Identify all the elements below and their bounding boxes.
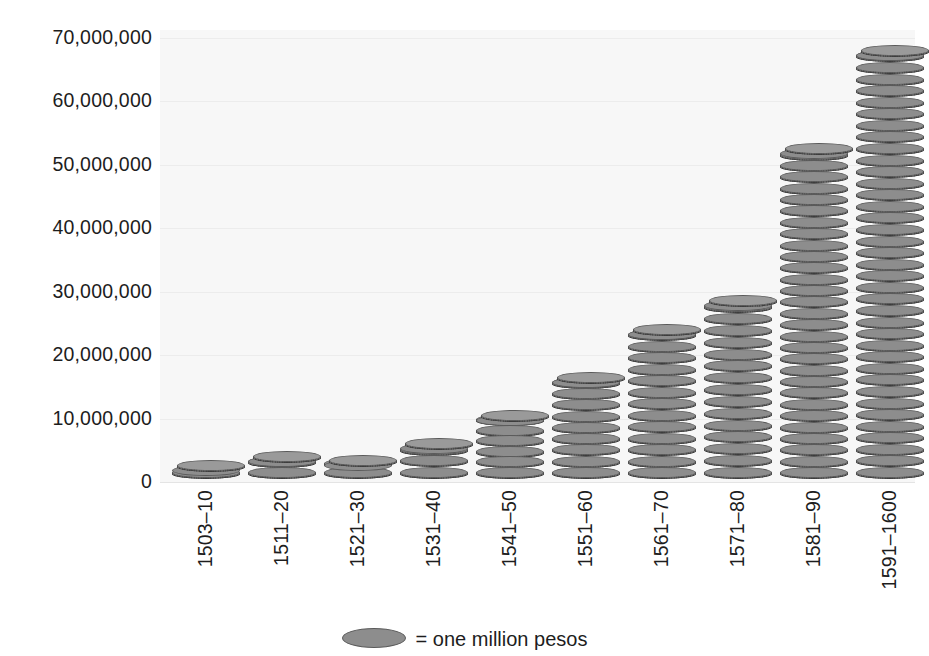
coin-face: [557, 372, 625, 383]
coin-face: [780, 422, 848, 433]
x-axis-tick-label: 1581–90: [776, 488, 852, 616]
x-axis-tick-text: 1561–70: [652, 490, 672, 567]
y-axis-tick-label: 50,000,000: [2, 155, 152, 175]
coin-face: [861, 45, 929, 56]
y-axis-tick-label: 60,000,000: [2, 91, 152, 111]
pictogram-bar-chart: 010,000,00020,000,00030,000,00040,000,00…: [0, 0, 929, 656]
x-axis-tick-text: 1511–20: [272, 490, 292, 566]
coin-face: [856, 178, 924, 189]
coin-face: [856, 398, 924, 409]
coin-face: [780, 467, 848, 478]
coin: [400, 467, 468, 482]
coin-face: [856, 236, 924, 247]
x-axis-tick-text: 1503–10: [196, 490, 216, 567]
coin-face: [628, 444, 696, 455]
x-axis-tick-label: 1571–80: [700, 488, 776, 616]
coin-face: [481, 410, 549, 421]
coin-face: [780, 433, 848, 444]
coin-face: [628, 341, 696, 352]
coin-face: [780, 342, 848, 353]
x-axis-tick-label: 1511–20: [244, 488, 320, 616]
coin-face: [628, 467, 696, 478]
coin-face: [780, 240, 848, 251]
coin-face: [704, 420, 772, 431]
y-axis-tick-label: 70,000,000: [2, 28, 152, 48]
coin-face: [342, 628, 406, 648]
coin-top: [405, 438, 473, 453]
x-axis-tick-label: 1531–40: [396, 488, 472, 616]
coin: [552, 467, 620, 482]
y-axis-tick-label: 30,000,000: [2, 282, 152, 302]
x-axis-tick-label: 1521–30: [320, 488, 396, 616]
coin-face: [552, 456, 620, 467]
coin-face: [628, 433, 696, 444]
y-axis-tick-label: 0: [2, 472, 152, 492]
x-axis-tick-text: 1581–90: [804, 490, 824, 567]
coin-face: [476, 467, 544, 478]
coin-top: [633, 324, 701, 339]
x-axis-tick-label: 1591–1600: [852, 488, 928, 616]
coin-face: [780, 308, 848, 319]
coin-face: [704, 325, 772, 336]
coin-face: [253, 451, 321, 462]
coin: [248, 467, 316, 482]
coin-face: [780, 376, 848, 387]
coin-face: [856, 467, 924, 478]
coin-face: [633, 324, 701, 335]
y-axis-tick-label: 10,000,000: [2, 409, 152, 429]
coin-face: [704, 349, 772, 360]
coin-face: [552, 411, 620, 422]
coin-face: [780, 456, 848, 467]
coin-face: [856, 120, 924, 131]
coin-face: [552, 467, 620, 478]
coin-icon: [342, 628, 406, 650]
coin-face: [628, 410, 696, 421]
coin-face: [856, 305, 924, 316]
coin-face: [476, 446, 544, 457]
coin-face: [704, 408, 772, 419]
coin-face: [780, 285, 848, 296]
coin-face: [628, 387, 696, 398]
x-axis-tick-text: 1571–80: [728, 490, 748, 567]
x-axis-tick-text: 1591–1600: [880, 490, 900, 589]
coin-top: [709, 295, 777, 310]
coin-face: [704, 467, 772, 478]
coin-face: [856, 386, 924, 397]
coin-face: [780, 331, 848, 342]
coin-face: [704, 396, 772, 407]
coin: [476, 467, 544, 482]
coin-face: [552, 422, 620, 433]
coin-face: [856, 224, 924, 235]
coin-top: [861, 45, 929, 60]
coin-top: [177, 460, 245, 475]
coin-top: [785, 143, 853, 158]
coin: [856, 467, 924, 482]
y-axis-tick-label: 20,000,000: [2, 345, 152, 365]
coin-face: [856, 62, 924, 73]
coin: [780, 467, 848, 482]
coin-face: [628, 456, 696, 467]
coin-face: [856, 97, 924, 108]
coin-face: [856, 143, 924, 154]
x-axis-tick-label: 1551–60: [548, 488, 624, 616]
coin-face: [856, 259, 924, 270]
x-axis-tick-text: 1531–40: [424, 490, 444, 567]
coin-face: [400, 467, 468, 478]
coin-face: [780, 399, 848, 410]
coin-face: [856, 317, 924, 328]
x-axis-tick-label: 1561–70: [624, 488, 700, 616]
coin-face: [780, 251, 848, 262]
x-axis-tick-label: 1541–50: [472, 488, 548, 616]
x-axis-tick-label: 1503–10: [168, 488, 244, 616]
coin-face: [780, 194, 848, 205]
coin-face: [780, 274, 848, 285]
coin-face: [856, 282, 924, 293]
chart-legend: = one million pesos: [0, 622, 929, 656]
coin-face: [780, 365, 848, 376]
y-axis-tick-label: 40,000,000: [2, 218, 152, 238]
x-axis: 1503–101511–201521–301531–401541–501551–…: [160, 488, 929, 618]
coin: [628, 467, 696, 482]
coin-face: [856, 201, 924, 212]
coin-top: [481, 410, 549, 425]
coin-top: [557, 372, 625, 387]
